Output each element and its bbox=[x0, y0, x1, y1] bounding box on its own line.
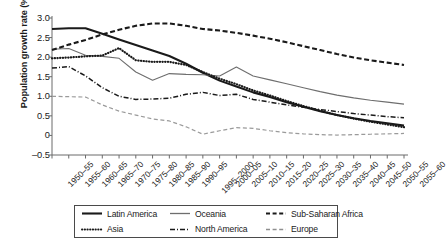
chart-legend: Latin AmericaOceaniaSub-Saharan AfricaAs… bbox=[74, 205, 338, 238]
legend-label: Latin America bbox=[107, 209, 157, 219]
legend-swatch-icon bbox=[169, 225, 191, 234]
legend-item[interactable]: Europe bbox=[265, 224, 363, 234]
legend-swatch-icon bbox=[169, 209, 191, 218]
legend-swatch-icon bbox=[265, 225, 287, 234]
legend-item[interactable]: Latin America bbox=[81, 209, 169, 219]
legend-swatch-icon bbox=[265, 209, 287, 218]
legend-label: Sub-Saharan Africa bbox=[291, 209, 363, 219]
legend-label: Europe bbox=[291, 224, 318, 234]
legend-label: Asia bbox=[107, 224, 123, 234]
legend-swatch-icon bbox=[81, 209, 103, 218]
legend-swatch-icon bbox=[81, 225, 103, 234]
legend-item[interactable]: Sub-Saharan Africa bbox=[265, 209, 363, 219]
legend-item[interactable]: Oceania bbox=[169, 209, 265, 219]
legend-item[interactable]: Asia bbox=[81, 224, 169, 234]
legend-label: North America bbox=[195, 224, 248, 234]
legend-item[interactable]: North America bbox=[169, 224, 265, 234]
legend-label: Oceania bbox=[195, 209, 226, 219]
